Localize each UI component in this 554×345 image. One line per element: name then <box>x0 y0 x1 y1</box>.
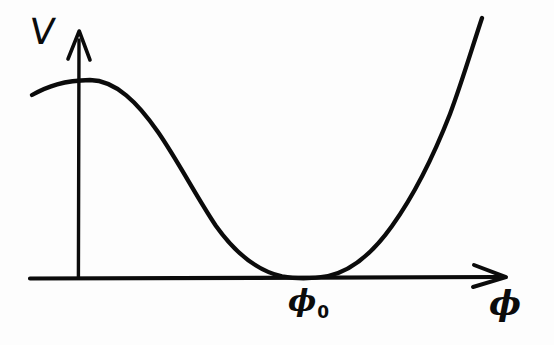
potential-curve <box>32 18 482 278</box>
axes-group <box>30 31 506 287</box>
potential-plot-canvas <box>0 0 554 345</box>
minimum-label: ϕ0 <box>288 286 329 321</box>
horizontal-axis-label: ϕ <box>489 286 521 320</box>
vertical-axis-line <box>78 40 79 278</box>
minimum-label-symbol: ϕ <box>288 283 316 318</box>
figure-container: V ϕ ϕ0 <box>0 0 554 345</box>
minimum-label-subscript: 0 <box>317 302 329 322</box>
horizontal-axis-line <box>30 277 498 279</box>
vertical-axis-label: V <box>28 14 57 50</box>
